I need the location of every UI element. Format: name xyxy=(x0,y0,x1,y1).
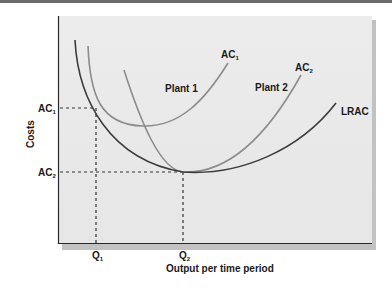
plot-area xyxy=(58,16,372,244)
x-tick-q2: Q2 xyxy=(179,250,191,262)
cost-curves-diagram: AC1 AC2 Q1 Q2 Output per time period Cos… xyxy=(0,0,392,292)
lrac-label: LRAC xyxy=(341,106,369,117)
plant1-label: Plant 1 xyxy=(165,83,198,94)
x-tick-q1: Q1 xyxy=(92,250,104,262)
plant2-label: Plant 2 xyxy=(255,82,288,93)
y-tick-ac1: AC1 xyxy=(38,103,56,115)
y-tick-ac2: AC2 xyxy=(38,167,56,179)
y-axis-title: Costs xyxy=(25,120,36,148)
x-axis-title: Output per time period xyxy=(166,263,274,274)
